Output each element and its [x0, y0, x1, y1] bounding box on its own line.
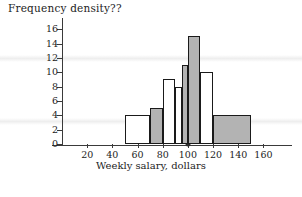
histogram-bar: [150, 108, 163, 144]
x-tick-label-100: 100: [179, 150, 197, 160]
histogram-bar: [125, 115, 150, 144]
y-tick-label-6: 6: [52, 96, 58, 106]
histogram-chart: Frequency density?? 0246810121416 204060…: [0, 0, 302, 197]
x-tick-40: [112, 144, 113, 148]
y-tick-label-2: 2: [52, 125, 58, 135]
x-tick-label-160: 160: [254, 150, 272, 160]
x-tick-label-140: 140: [229, 150, 247, 160]
histogram-bar: [213, 115, 251, 144]
y-tick-label-0: 0: [52, 139, 58, 149]
x-tick-label-120: 120: [204, 150, 222, 160]
x-tick-label-60: 60: [131, 150, 143, 160]
x-tick-20: [87, 144, 88, 148]
x-tick-80: [163, 144, 164, 148]
histogram-bar: [188, 36, 201, 144]
x-tick-label-20: 20: [81, 150, 93, 160]
plot-area: 0246810121416 20406080100120140160: [62, 22, 276, 144]
y-tick-label-16: 16: [46, 24, 58, 34]
y-tick-label-4: 4: [52, 111, 58, 121]
x-axis-label: Weekly salary, dollars: [0, 160, 302, 171]
histogram-bar: [163, 79, 176, 144]
x-tick-140: [238, 144, 239, 148]
y-tick-label-8: 8: [52, 82, 58, 92]
x-tick-60: [138, 144, 139, 148]
x-tick-label-40: 40: [106, 150, 118, 160]
x-tick-label-80: 80: [157, 150, 169, 160]
x-tick-160: [263, 144, 264, 148]
chart-title: Frequency density??: [8, 2, 122, 14]
x-tick-120: [213, 144, 214, 148]
histogram-bar: [200, 72, 213, 144]
y-tick-label-10: 10: [46, 67, 58, 77]
y-tick-label-14: 14: [46, 39, 58, 49]
y-tick-label-12: 12: [46, 53, 58, 63]
